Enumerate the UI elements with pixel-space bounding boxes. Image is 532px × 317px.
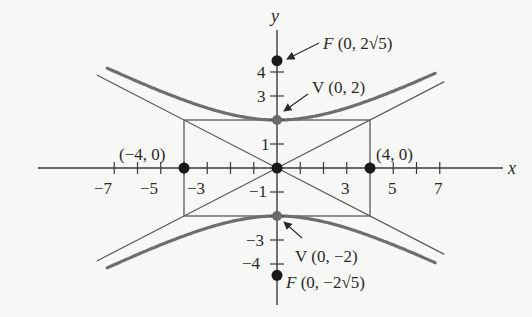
arrow-vertex-bottom bbox=[284, 222, 302, 238]
x-tick-label: 5 bbox=[388, 179, 397, 198]
x-tick-labels: −7 −5 −3 3 5 7 bbox=[94, 179, 443, 198]
focus-top-label: F (0, 2√5) bbox=[322, 34, 392, 53]
vertex-top-coords: (0, 2) bbox=[324, 78, 365, 97]
x-tick-label: −5 bbox=[140, 179, 158, 198]
asymptote-negative-slope bbox=[97, 75, 445, 254]
x-tick-label: 3 bbox=[341, 179, 350, 198]
focus-bottom-letter: F bbox=[285, 273, 297, 292]
hyperbola-diagram: x y −7 −5 −3 3 5 7 4 3 1 −1 −3 −4 F (0, … bbox=[0, 0, 532, 317]
y-tick-label: −4 bbox=[242, 254, 261, 273]
y-tick-label: 1 bbox=[261, 135, 270, 154]
focus-top-letter: F bbox=[322, 34, 334, 53]
y-axis-label: y bbox=[269, 6, 279, 26]
y-tick-label: −1 bbox=[249, 182, 267, 201]
arrow-vertex-top bbox=[284, 94, 308, 111]
focus-top-close: ) bbox=[387, 34, 393, 53]
y-tick-label: −3 bbox=[246, 231, 264, 250]
focus-bottom-sqrt: √5 bbox=[341, 273, 359, 292]
x-tick-label: 7 bbox=[434, 179, 443, 198]
arrow-focus-top bbox=[287, 43, 319, 59]
intercept-point bbox=[179, 163, 190, 174]
label-arrows bbox=[284, 43, 319, 238]
focus-bottom-label: F (0, −2√5) bbox=[285, 273, 365, 292]
vertex-point bbox=[272, 115, 282, 125]
focus-point bbox=[272, 270, 283, 281]
asymptote-positive-slope bbox=[97, 82, 445, 261]
vertex-bottom-coords: (0, −2) bbox=[307, 247, 358, 266]
vertex-top-label: V (0, 2) bbox=[312, 78, 365, 97]
focus-top-sqrt: √5 bbox=[369, 34, 387, 53]
center-point bbox=[272, 163, 283, 174]
right-point-label: (4, 0) bbox=[376, 145, 413, 164]
x-tick-label: −7 bbox=[94, 179, 113, 198]
focus-point bbox=[272, 55, 283, 66]
x-axis-label: x bbox=[507, 158, 516, 178]
intercept-point bbox=[365, 163, 376, 174]
vertex-point bbox=[272, 211, 282, 221]
y-tick-label: 3 bbox=[257, 87, 266, 106]
left-point-label: (−4, 0) bbox=[119, 145, 165, 164]
focus-bottom-coords: (0, −2 bbox=[296, 273, 341, 292]
vertex-bottom-label: V (0, −2) bbox=[295, 247, 358, 266]
y-tick-label: 4 bbox=[257, 63, 266, 82]
focus-top-coords: (0, 2 bbox=[333, 34, 368, 53]
x-tick-label: −3 bbox=[187, 179, 205, 198]
focus-bottom-close: ) bbox=[359, 273, 365, 292]
